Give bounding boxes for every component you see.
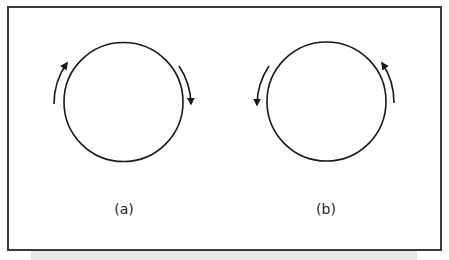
panel-a — [54, 43, 191, 162]
arrow-a-left-up-icon — [54, 63, 67, 104]
panel-a-label: (a) — [94, 201, 154, 217]
panel-b-label: (b) — [296, 201, 356, 217]
circle-b — [267, 42, 386, 161]
circle-a — [64, 43, 183, 162]
panel-b — [257, 42, 394, 161]
rotation-diagram — [0, 0, 449, 260]
